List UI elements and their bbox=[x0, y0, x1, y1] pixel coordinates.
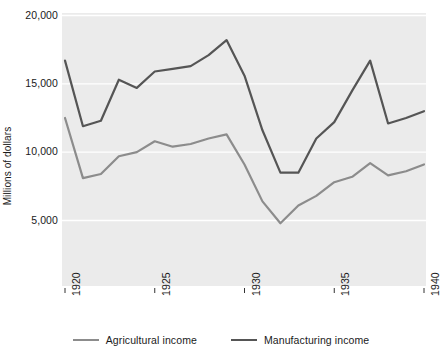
y-tick-label: 5,000 bbox=[10, 214, 58, 226]
legend-item: Agricultural income bbox=[73, 334, 197, 346]
y-axis-tick-labels: 5,00010,00015,00020,000 bbox=[8, 0, 58, 361]
x-tick-label: 1940 bbox=[429, 272, 441, 296]
plot-panel bbox=[62, 13, 426, 286]
legend-line-icon bbox=[231, 339, 257, 342]
x-tick-label: 1930 bbox=[250, 272, 262, 296]
y-tick-label: 15,000 bbox=[10, 77, 58, 89]
legend-line-icon bbox=[73, 339, 99, 342]
x-tick-label: 1925 bbox=[160, 272, 172, 296]
legend-label: Manufacturing income bbox=[264, 334, 369, 346]
legend-item: Manufacturing income bbox=[231, 334, 369, 346]
plot-area bbox=[0, 0, 442, 361]
legend-label: Agricultural income bbox=[106, 334, 197, 346]
y-tick-label: 20,000 bbox=[10, 9, 58, 21]
x-tick-label: 1935 bbox=[339, 272, 351, 296]
line-chart: Millions of dollars 5,00010,00015,00020,… bbox=[0, 0, 442, 361]
y-tick-label: 10,000 bbox=[10, 145, 58, 157]
chart-legend: Agricultural incomeManufacturing income bbox=[0, 334, 442, 346]
x-tick-label: 1920 bbox=[70, 272, 82, 296]
